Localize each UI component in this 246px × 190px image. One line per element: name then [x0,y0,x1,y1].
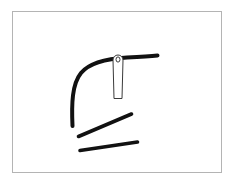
lower-diagonal-stroke [80,142,138,151]
needle-shape [113,55,123,99]
needle-eye-icon [116,57,120,62]
upper-diagonal-stroke [79,114,132,137]
sketch-illustration [0,0,246,190]
sketch-canvas: needle and thread line sketch [0,0,246,190]
